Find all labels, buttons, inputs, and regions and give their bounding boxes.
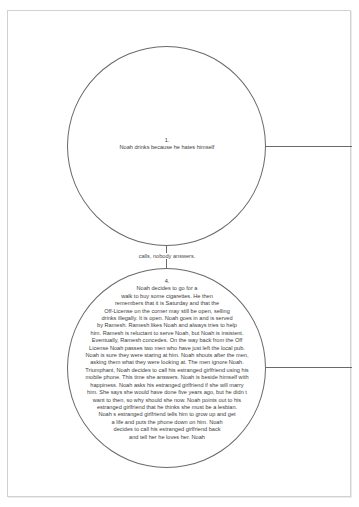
node-4-line: remembers that it is Saturday and that t…: [80, 300, 254, 307]
node-4-branch-line: [265, 367, 352, 368]
node-4-line: drinks illegally. It is open. Noah goes …: [80, 315, 254, 322]
node-1-number: 1.: [92, 137, 242, 144]
node-4-line: him. She says she would have done five y…: [80, 389, 254, 396]
node-4-line: asking them what they were looking at. T…: [80, 359, 254, 366]
story-node-4-text: 4. Noah decides to go for a walk to buy …: [80, 278, 254, 441]
node-4-line: decides to call his estranged girlfriend…: [80, 426, 254, 433]
node-4-line: Noah decides to go for a: [80, 285, 254, 292]
node-4-line: License Noah passes two men who have jus…: [80, 345, 254, 352]
node-4-line: a life and puts the phone down on him. N…: [80, 419, 254, 426]
node-4-number: 4.: [80, 278, 254, 285]
node-4-line: by Ramesh. Ramesh likes Noah and always …: [80, 322, 254, 329]
node-1-description: Noah drinks because he hates himself: [92, 144, 242, 151]
node-4-line: estranged girlfriend that he thinks she …: [80, 404, 254, 411]
node-4-line: him. Ramesh is reluctant to serve Noah, …: [80, 330, 254, 337]
node-4-line: and tell her he loves her. Noah: [80, 434, 254, 441]
node-4-line: walk to buy some cigarettes. He then: [80, 293, 254, 300]
story-node-1-text: 1. Noah drinks because he hates himself: [92, 137, 242, 152]
node-4-line: happiness. Noah asks his estranged girlf…: [80, 382, 254, 389]
node-4-line: mobile phone. This time she answers. Noa…: [80, 374, 254, 381]
node-4-line: Off-License on the corner may still be o…: [80, 308, 254, 315]
node-4-line: Noah s estranged girlfriend tells him to…: [80, 411, 254, 418]
node-1-branch-line: [265, 146, 352, 147]
connector-label: calls, nobody answers.: [100, 253, 234, 260]
node-4-line: Eventually, Ramesh concedes. On the way …: [80, 337, 254, 344]
node-4-line: want to then, so why should she now. Noa…: [80, 397, 254, 404]
node-4-line: Noah is sure they were staring at him. N…: [80, 352, 254, 359]
connector-label-text: calls, nobody answers.: [138, 253, 197, 259]
node-4-line: Triumphant, Noah decides to call his est…: [80, 367, 254, 374]
